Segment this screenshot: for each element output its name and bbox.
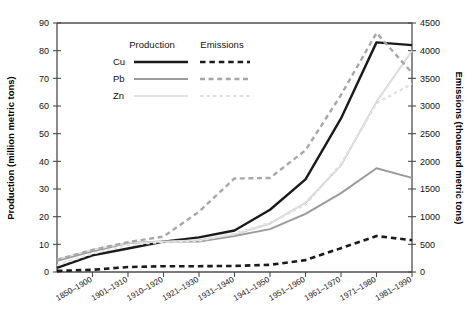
y-tick-label-right: 4500 [420,18,440,28]
y-axis-label-right: Emissions (thousand metric tons) [454,71,465,224]
y-tick-label-left: 10 [39,240,49,250]
y-tick-label-left: 40 [39,157,49,167]
y-tick-label-left: 90 [39,18,49,28]
y-tick-label-right: 0 [420,267,425,277]
y-tick-label-left: 20 [39,212,49,222]
legend-header-emissions: Emissions [200,39,244,50]
y-tick-label-left: 50 [39,129,49,139]
y-tick-label-right: 1000 [420,212,440,222]
y-tick-label-left: 70 [39,74,49,84]
y-tick-label-left: 0 [44,267,49,277]
y-tick-label-left: 80 [39,46,49,56]
chart-container: Production (million metric tons) Emissio… [0,0,468,333]
legend-row-label-pb: Pb [113,73,125,84]
y-tick-label-left: 30 [39,184,49,194]
legend-row-label-zn: Zn [113,90,124,101]
y-tick-label-left: 60 [39,101,49,111]
y-tick-label-right: 1500 [420,184,440,194]
legend-row-label-cu: Cu [113,56,125,67]
y-tick-label-right: 500 [420,240,435,250]
line-chart: Production (million metric tons) Emissio… [0,0,468,333]
y-tick-label-right: 4000 [420,46,440,56]
y-tick-label-right: 2500 [420,129,440,139]
legend-header-production: Production [129,39,174,50]
y-axis-label-left: Production (million metric tons) [5,76,16,220]
y-tick-label-right: 3500 [420,74,440,84]
y-tick-label-right: 3000 [420,101,440,111]
y-tick-label-right: 2000 [420,157,440,167]
